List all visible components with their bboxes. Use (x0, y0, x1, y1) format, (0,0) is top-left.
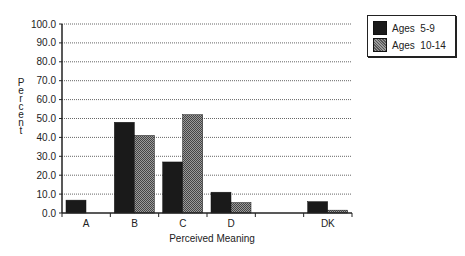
gridlines (62, 24, 352, 194)
y-tick-label: 90.0 (37, 37, 57, 48)
bar (134, 136, 154, 213)
bar (114, 122, 134, 213)
legend: Ages 5-9 Ages 10-14 (367, 15, 456, 57)
x-tick-label: D (228, 218, 235, 229)
legend-label: Ages 10-14 (392, 40, 446, 51)
x-tick-label: B (131, 218, 138, 229)
y-axis-label: Percent (18, 77, 25, 136)
legend-label: Ages 5-9 (392, 23, 435, 34)
y-tick-label: 60.0 (37, 94, 57, 105)
x-tick-label: A (83, 218, 90, 229)
bar (211, 192, 231, 213)
legend-item-ages-10-14: Ages 10-14 (373, 38, 446, 52)
y-tick-label: 20.0 (37, 170, 57, 181)
x-axis-label: Perceived Meaning (169, 233, 255, 244)
y-tick-label: 70.0 (37, 75, 57, 86)
y-axis-label-letter: t (20, 125, 23, 136)
x-axis-ticks: ABCDDK (62, 213, 352, 229)
bar (308, 202, 328, 213)
bar (66, 200, 86, 213)
bar (183, 115, 203, 213)
y-tick-label: 100.0 (31, 19, 56, 30)
x-tick-label: DK (321, 218, 335, 229)
bar (231, 203, 251, 213)
y-tick-label: 40.0 (37, 132, 57, 143)
y-tick-label: 50.0 (37, 113, 57, 124)
legend-swatch-dark (373, 21, 387, 35)
x-tick-label: C (179, 218, 186, 229)
y-tick-label: 0.0 (42, 208, 56, 219)
bar (163, 162, 183, 213)
legend-item-ages-5-9: Ages 5-9 (373, 21, 435, 35)
bars (66, 115, 348, 213)
y-axis-ticks: 0.010.020.030.040.050.060.070.080.090.01… (31, 19, 62, 219)
y-tick-label: 30.0 (37, 151, 57, 162)
y-tick-label: 10.0 (37, 189, 57, 200)
legend-swatch-hatched (373, 38, 387, 52)
y-tick-label: 80.0 (37, 56, 57, 67)
